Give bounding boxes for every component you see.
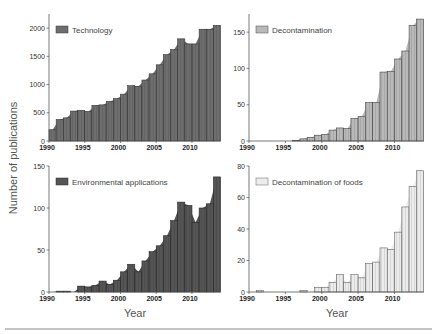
y-tick-label: 60 [237, 194, 245, 201]
bar-hatch [344, 129, 351, 141]
bar-hatch [402, 207, 409, 292]
bar-hatch [213, 177, 220, 292]
bar-hatch [329, 130, 336, 141]
bar-hatch [351, 119, 358, 141]
bar-hatch [171, 50, 178, 141]
bar-hatch [178, 39, 185, 141]
bar-hatch [206, 29, 213, 141]
bar-hatch [387, 249, 394, 292]
bar-hatch [387, 71, 394, 141]
bar-hatch [56, 120, 63, 141]
legend-label: Decontamination [272, 26, 332, 35]
bar-hatch [156, 246, 163, 292]
bar-hatch [135, 272, 142, 292]
x-tick-label: 1995 [75, 144, 91, 151]
bar-hatch [149, 74, 156, 141]
bar-hatch [113, 99, 120, 141]
y-axis-title: Number of publications [7, 101, 19, 214]
bar-hatch [142, 261, 149, 292]
bar-hatch [307, 137, 314, 141]
x-tick-label: 2005 [146, 295, 162, 302]
x-tick-label: 1995 [276, 295, 292, 302]
bar-hatch [344, 283, 351, 292]
bar-hatch [365, 264, 372, 292]
bar-hatch [149, 252, 156, 292]
bar-hatch [351, 275, 358, 292]
panel-decontamination: 05010015019901995200020052010Decontamina… [233, 14, 424, 151]
bar-hatch [85, 287, 92, 292]
legend-label: Decontamination of foods [272, 178, 363, 187]
bar-hatch [99, 281, 106, 292]
bar-hatch [409, 26, 416, 141]
legend-label: Environmental applications [72, 178, 168, 187]
bar-hatch [192, 222, 199, 292]
bar-hatch [78, 286, 85, 292]
y-tick-label: 2000 [29, 25, 45, 32]
x-tick-label: 1990 [39, 144, 55, 151]
bar-hatch [92, 105, 99, 141]
panel-environmental-applications: 05010015019901995200020052010Environment… [33, 163, 221, 303]
bar-hatch [163, 236, 170, 292]
bar-hatch [395, 232, 402, 292]
x-tick-label: 2000 [312, 295, 328, 302]
bar-hatch [402, 51, 409, 141]
x-tick-label: 2000 [312, 144, 328, 151]
bar-hatch [178, 202, 185, 292]
bar-hatch [192, 44, 199, 141]
bar-hatch [416, 19, 423, 141]
bar-hatch [206, 204, 213, 292]
y-tick-label: 100 [33, 205, 45, 212]
bar-hatch [409, 186, 416, 292]
bar-hatch [314, 287, 321, 292]
x-tick-label: 1990 [39, 295, 55, 302]
bar-hatch [128, 264, 135, 292]
x-axis-title-right: Year [326, 307, 349, 319]
bar-hatch [49, 130, 56, 141]
x-tick-label: 2010 [385, 295, 401, 302]
y-tick-label: 1500 [29, 53, 45, 60]
x-tick-label: 2010 [385, 144, 401, 151]
y-tick-label: 80 [237, 163, 245, 170]
bar-hatch [128, 86, 135, 141]
bar-hatch [92, 285, 99, 292]
y-tick-label: 500 [33, 109, 45, 116]
bar-hatch [185, 44, 192, 141]
bar-hatch [322, 287, 329, 292]
x-tick-label: 1995 [75, 295, 91, 302]
x-tick-label: 2010 [182, 144, 198, 151]
panel-technology: 050010001500200019901995200020052010Tech… [29, 14, 221, 151]
x-tick-label: 2000 [111, 144, 127, 151]
x-axis-title-left: Year [124, 307, 147, 319]
bar-hatch [213, 25, 220, 141]
bar-hatch [358, 278, 365, 292]
bar-hatch [70, 111, 77, 141]
x-tick-label: 1990 [239, 144, 255, 151]
legend-label: Technology [72, 26, 112, 35]
bar-hatch [329, 283, 336, 292]
y-tick-label: 50 [37, 247, 45, 254]
bar-hatch [380, 72, 387, 141]
y-tick-label: 1000 [29, 81, 45, 88]
x-tick-label: 2010 [182, 295, 198, 302]
bar-hatch [314, 135, 321, 141]
bar-hatch [199, 29, 206, 141]
bar-hatch [185, 205, 192, 292]
bar-hatch [120, 272, 127, 292]
bar-hatch [120, 94, 127, 141]
bar-hatch [135, 86, 142, 141]
legend-swatch [256, 178, 268, 185]
y-tick-label: 150 [233, 29, 245, 36]
x-tick-label: 1995 [276, 144, 292, 151]
x-tick-label: 2000 [111, 295, 127, 302]
chart-canvas: 050010001500200019901995200020052010Tech… [0, 0, 437, 334]
bar-hatch [106, 101, 113, 141]
y-tick-label: 50 [237, 101, 245, 108]
bar-hatch [63, 118, 70, 141]
bar-hatch [380, 248, 387, 292]
bar-hatch [99, 105, 106, 141]
bar-hatch [373, 103, 380, 141]
x-tick-label: 2005 [348, 295, 364, 302]
bar-hatch [85, 112, 92, 141]
bar-hatch [142, 80, 149, 141]
legend-swatch [56, 178, 68, 185]
